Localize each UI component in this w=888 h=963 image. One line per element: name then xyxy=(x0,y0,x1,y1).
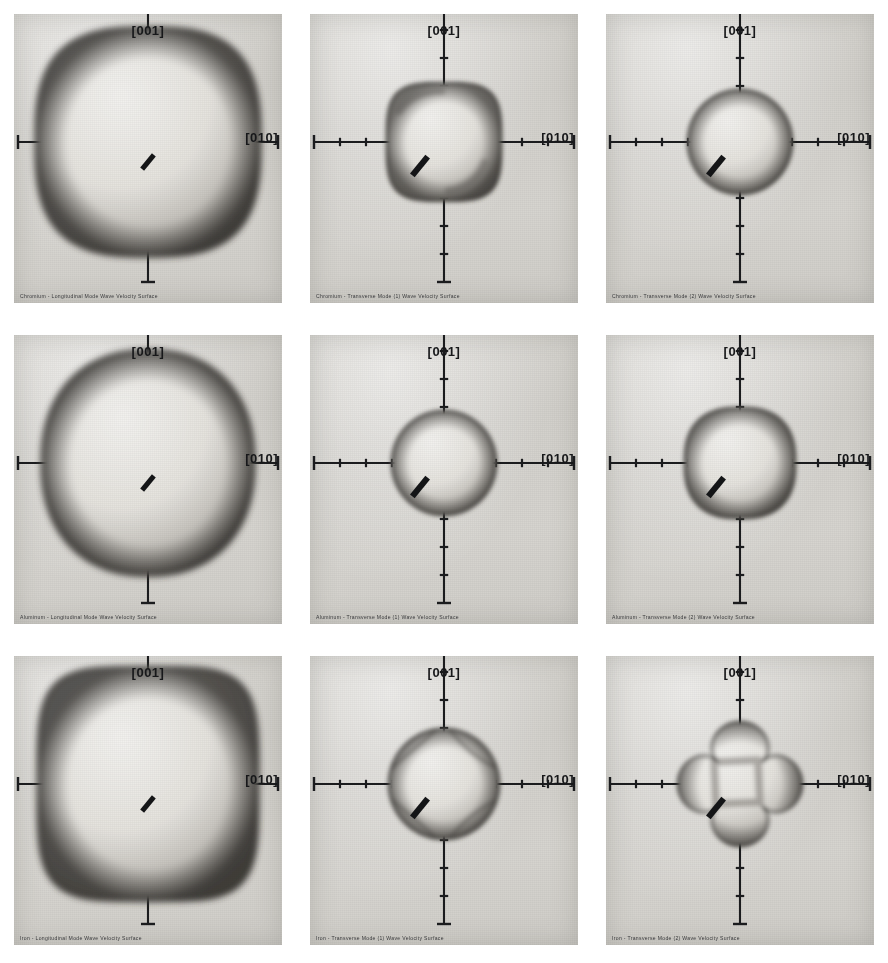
velocity-surface-body xyxy=(42,351,254,576)
velocity-surface-plot xyxy=(14,14,282,303)
velocity-surface-plot xyxy=(14,335,282,624)
axis-label-001: [001] xyxy=(724,665,757,680)
axis-label-001: [001] xyxy=(132,23,165,38)
axis-label-001: [001] xyxy=(724,23,757,38)
photographic-plate: [001] [010] Aluminum - Transverse Mode (… xyxy=(606,335,874,624)
panel-iron-transverse-1: [001] [010] Iron - Transverse Mode (1) W… xyxy=(296,642,592,963)
velocity-surface-plot xyxy=(310,335,578,624)
panel-chromium-longitudinal: [001] [010] Chromium - Longitudinal Mode… xyxy=(0,0,296,321)
axis-label-001: [001] xyxy=(428,23,461,38)
axis-label-001: [001] xyxy=(428,665,461,680)
axis-label-010: [010] xyxy=(541,450,574,465)
axis-label-010: [010] xyxy=(245,129,278,144)
axis-label-010: [010] xyxy=(541,129,574,144)
velocity-surface-plot xyxy=(606,656,874,945)
photographic-plate: [001] [010] Aluminum - Transverse Mode (… xyxy=(310,335,578,624)
velocity-surface-body xyxy=(678,722,802,846)
photographic-plate: [001] [010] Chromium - Transverse Mode (… xyxy=(606,14,874,303)
surface-rim-shading xyxy=(392,411,496,515)
velocity-surface-body xyxy=(38,667,258,900)
axis-label-001: [001] xyxy=(428,344,461,359)
panel-caption: Iron - Transverse Mode (1) Wave Velocity… xyxy=(316,934,444,941)
velocity-surface-plot xyxy=(310,14,578,303)
photographic-plate: [001] [010] Iron - Longitudinal Mode Wav… xyxy=(14,656,282,945)
axis-label-001: [001] xyxy=(132,665,165,680)
axis-label-010: [010] xyxy=(837,771,870,786)
surface-rim-shading xyxy=(688,90,792,194)
surface-rim-shading xyxy=(387,83,501,200)
axis-label-010: [010] xyxy=(245,450,278,465)
velocity-surface-body xyxy=(36,28,260,256)
velocity-surface-body xyxy=(387,83,501,200)
axis-label-010: [010] xyxy=(837,450,870,465)
velocity-surface-plot xyxy=(310,656,578,945)
panel-caption: Chromium - Transverse Mode (1) Wave Velo… xyxy=(316,292,460,299)
panel-caption: Aluminum - Transverse Mode (1) Wave Velo… xyxy=(316,613,459,620)
panel-caption: Chromium - Longitudinal Mode Wave Veloci… xyxy=(20,292,158,299)
velocity-surface-body xyxy=(685,408,795,518)
axis-label-001: [001] xyxy=(132,344,165,359)
photographic-plate: [001] [010] Iron - Transverse Mode (2) W… xyxy=(606,656,874,945)
axis-label-010: [010] xyxy=(541,771,574,786)
axis-label-010: [010] xyxy=(245,771,278,786)
velocity-surface-body xyxy=(688,90,792,194)
surface-rim-shading xyxy=(42,351,254,576)
panel-caption: Aluminum - Transverse Mode (2) Wave Velo… xyxy=(612,613,755,620)
surface-rim-shading xyxy=(36,28,260,256)
panel-aluminum-transverse-1: [001] [010] Aluminum - Transverse Mode (… xyxy=(296,321,592,642)
figure-sheet: [001] [010] Chromium - Longitudinal Mode… xyxy=(0,0,888,963)
velocity-surface-plot xyxy=(606,14,874,303)
photographic-plate: [001] [010] Chromium - Transverse Mode (… xyxy=(310,14,578,303)
panel-chromium-transverse-1: [001] [010] Chromium - Transverse Mode (… xyxy=(296,0,592,321)
panel-chromium-transverse-2: [001] [010] Chromium - Transverse Mode (… xyxy=(592,0,888,321)
surface-rim-shading xyxy=(685,408,795,518)
photographic-plate: [001] [010] Chromium - Longitudinal Mode… xyxy=(14,14,282,303)
panel-aluminum-longitudinal: [001] [010] Aluminum - Longitudinal Mode… xyxy=(0,321,296,642)
velocity-surface-plot xyxy=(606,335,874,624)
axis-label-010: [010] xyxy=(837,129,870,144)
panel-caption: Iron - Longitudinal Mode Wave Velocity S… xyxy=(20,934,142,941)
velocity-surface-plot xyxy=(14,656,282,945)
velocity-surface-body xyxy=(389,729,499,839)
photographic-plate: [001] [010] Iron - Transverse Mode (1) W… xyxy=(310,656,578,945)
panel-grid: [001] [010] Chromium - Longitudinal Mode… xyxy=(0,0,888,963)
panel-caption: Aluminum - Longitudinal Mode Wave Veloci… xyxy=(20,613,157,620)
photographic-plate: [001] [010] Aluminum - Longitudinal Mode… xyxy=(14,335,282,624)
panel-iron-longitudinal: [001] [010] Iron - Longitudinal Mode Wav… xyxy=(0,642,296,963)
surface-rim-shading xyxy=(389,729,499,839)
velocity-surface-body xyxy=(392,411,496,515)
axis-label-001: [001] xyxy=(724,344,757,359)
surface-rim-shading xyxy=(678,722,802,846)
panel-caption: Iron - Transverse Mode (2) Wave Velocity… xyxy=(612,934,740,941)
panel-aluminum-transverse-2: [001] [010] Aluminum - Transverse Mode (… xyxy=(592,321,888,642)
panel-caption: Chromium - Transverse Mode (2) Wave Velo… xyxy=(612,292,756,299)
panel-iron-transverse-2: [001] [010] Iron - Transverse Mode (2) W… xyxy=(592,642,888,963)
surface-rim-shading xyxy=(38,667,258,900)
